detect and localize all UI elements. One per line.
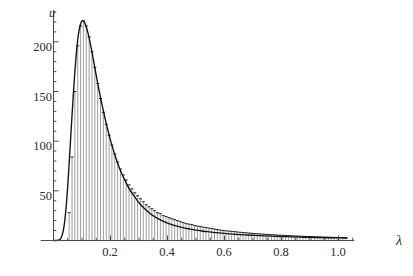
- x-tick-label-0-8: 0.8: [267, 245, 295, 260]
- y-tick-label-50: 50: [22, 189, 52, 204]
- x-tick-label-0-6: 0.6: [210, 245, 238, 260]
- y-axis-label: u: [49, 6, 55, 21]
- histogram-bar-caps: [68, 21, 347, 238]
- x-tick-label-1-0: 1.0: [324, 245, 352, 260]
- histogram-bars: [69, 21, 345, 241]
- x-tick-label-0-2: 0.2: [96, 245, 124, 260]
- y-axis: [54, 10, 59, 240]
- x-axis-label: λ: [396, 233, 402, 249]
- x-tick-label-0-4: 0.4: [153, 245, 181, 260]
- chart-figure: 200 150 100 50 0.2 0.4 0.6 0.8 1.0 u λ: [0, 0, 413, 276]
- y-tick-label-100: 100: [22, 139, 52, 154]
- y-tick-label-150: 150: [22, 90, 52, 105]
- chart-plot-area: [0, 0, 413, 276]
- y-tick-label-200: 200: [22, 40, 52, 55]
